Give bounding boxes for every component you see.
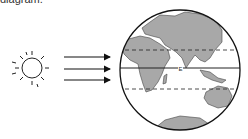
earth-globe: E [118, 10, 242, 139]
sun-earth-diagram: E [0, 0, 248, 139]
sun-rays [64, 57, 110, 80]
equator-label: E [179, 66, 183, 72]
sun-icon [12, 51, 49, 87]
